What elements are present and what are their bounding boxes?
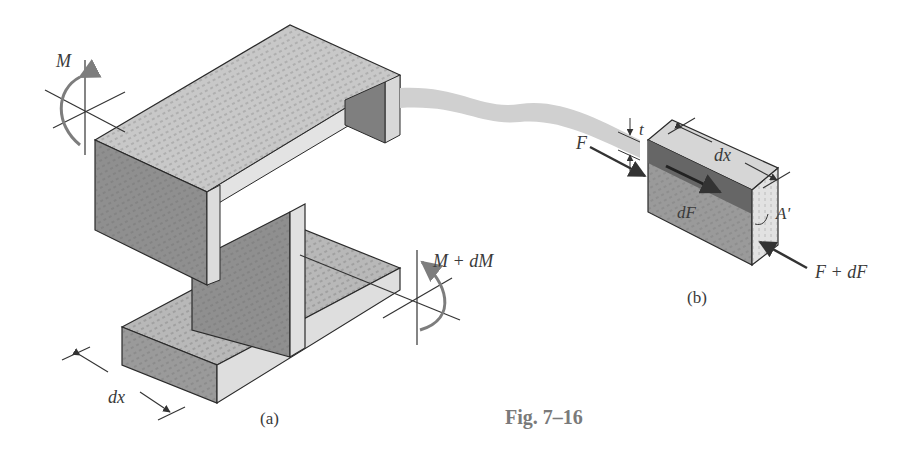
label-F: F bbox=[576, 134, 587, 152]
label-A-prime: A' bbox=[776, 205, 790, 222]
force-arrow-FdF bbox=[760, 242, 807, 268]
label-dx-a: dx bbox=[108, 388, 125, 406]
label-F-dF: F + dF bbox=[815, 263, 867, 281]
label-part-a: (a) bbox=[260, 410, 279, 427]
beam-diagram bbox=[0, 0, 920, 458]
figure-caption: Fig. 7–16 bbox=[505, 406, 583, 429]
i-beam bbox=[95, 25, 400, 403]
label-dF: dF bbox=[677, 204, 696, 221]
label-t: t bbox=[639, 121, 644, 138]
label-part-b: (b) bbox=[687, 289, 707, 306]
element-b bbox=[648, 120, 778, 265]
label-dx-b: dx bbox=[714, 146, 731, 164]
label-moment-left: M bbox=[56, 52, 71, 70]
cut-strip bbox=[400, 88, 640, 158]
label-moment-right: M + dM bbox=[433, 252, 493, 270]
